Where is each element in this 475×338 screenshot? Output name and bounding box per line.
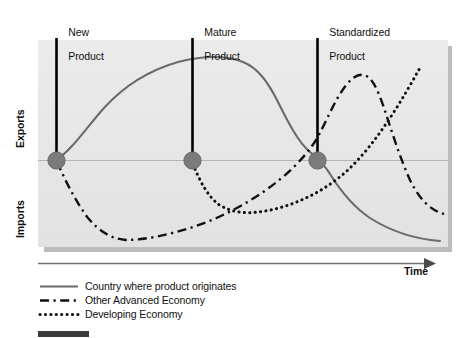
phase-label-mature-product-line2: Product xyxy=(204,50,240,62)
phase-label-new-product: New Product xyxy=(57,14,104,74)
phase-marker-mature-product xyxy=(184,152,201,169)
chart-figure: New Product Mature Product Standardized … xyxy=(0,0,475,338)
phase-label-standardized-product-line2: Product xyxy=(329,50,365,62)
phase-marker-new-product xyxy=(48,152,65,169)
y-axis-label-exports: Exports xyxy=(14,110,26,148)
legend-label-origin: Country where product originates xyxy=(85,280,236,293)
phase-label-mature-product-line1: Mature xyxy=(204,26,236,38)
legend-label-developing: Developing Economy xyxy=(85,308,182,321)
footer-accent-bar xyxy=(38,331,89,337)
phase-label-new-product-line1: New xyxy=(68,26,89,38)
phase-label-standardized-product: Standardized Product xyxy=(318,14,390,74)
x-axis-label-time: Time xyxy=(404,265,428,277)
legend-label-other-advanced: Other Advanced Economy xyxy=(85,294,205,307)
phase-label-mature-product: Mature Product xyxy=(193,14,240,74)
phase-label-standardized-product-line1: Standardized xyxy=(329,26,390,38)
phase-marker-standardized-product xyxy=(309,152,326,169)
y-axis-label-imports: Imports xyxy=(14,200,26,238)
phase-label-new-product-line2: Product xyxy=(68,50,104,62)
